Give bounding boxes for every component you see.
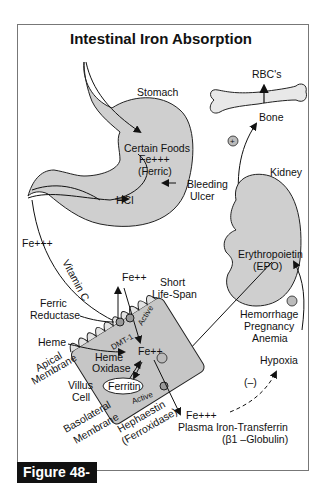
villus-cell <box>65 290 206 426</box>
ferric-reductase-label: Reductase <box>30 309 80 321</box>
heme-oxidase-label: Oxidase <box>92 362 131 374</box>
life-span-label: Life-Span <box>152 288 197 300</box>
bleeding-label: Bleeding <box>187 178 228 190</box>
ulcer-label: Ulcer <box>190 190 215 202</box>
hcl-label: HCl <box>116 194 134 206</box>
heme-label: Heme <box>38 336 66 348</box>
ferric-label-reductase-1: Ferric <box>40 297 67 309</box>
pregnancy-label: Pregnancy <box>244 320 295 332</box>
beta1-globulin-label: (β1 –Globulin) <box>222 433 288 445</box>
fe3-stomach-label: Fe+++ <box>139 153 170 165</box>
kidney-label: Kidney <box>270 166 303 178</box>
ferric-label: (Ferric) <box>138 165 172 177</box>
ferritin-label: Ferritin <box>108 380 141 392</box>
rbcs-label: RBC's <box>252 68 281 80</box>
short-label: Short <box>160 276 185 288</box>
inhibit-minus-label: (–) <box>244 376 257 388</box>
fe3-plasma-label: Fe+++ <box>186 409 217 421</box>
villus-label: Villus <box>68 379 93 391</box>
figure-label: Figure 48-2 <box>17 462 97 483</box>
fe3-left-label: Fe+++ <box>22 237 53 249</box>
cell-label: Cell <box>72 391 90 403</box>
stomach-label: Stomach <box>137 86 179 98</box>
kidney-shape <box>224 174 301 306</box>
fe2-top-label: Fe++ <box>122 271 147 283</box>
bone-label: Bone <box>259 111 284 123</box>
bone-shape <box>210 84 306 113</box>
svg-text:+: + <box>230 137 235 146</box>
hemorrhage-label: Hemorrhage <box>240 308 299 320</box>
plasma-iron-transferrin-label: Plasma Iron-Transferrin <box>178 421 288 433</box>
hypoxia-plus-icon <box>287 296 297 306</box>
anemia-label: Anemia <box>252 332 288 344</box>
hypoxia-label: Hypoxia <box>260 354 298 366</box>
cell-plus-icon <box>157 353 167 363</box>
erythropoietin-label: Erythropoietin <box>238 248 303 260</box>
iron-absorption-diagram: Stomach Certain Foods Fe+++ (Ferric) Ble… <box>0 0 322 488</box>
